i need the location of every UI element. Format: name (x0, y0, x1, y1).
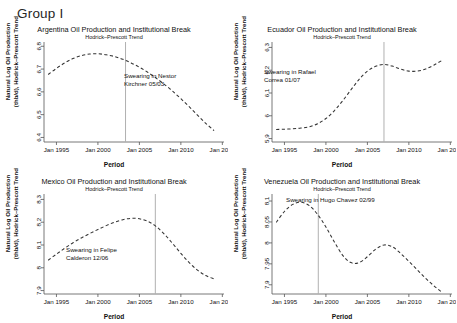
svg-text:7.95: 7.95 (263, 257, 270, 270)
plot-area: 7.97.9588.058.1Jan 1995Jan 2000Jan 2005J… (228, 172, 456, 322)
svg-text:Jan 1995: Jan 1995 (44, 298, 70, 305)
annotation-line1: Swearing in Hugo Chavez 02/99 (286, 196, 375, 204)
svg-text:Jan 2015: Jan 2015 (210, 298, 228, 305)
svg-text:Jan 1995: Jan 1995 (272, 298, 298, 305)
svg-text:Jan 1995: Jan 1995 (44, 146, 70, 153)
svg-text:Jan 2010: Jan 2010 (168, 298, 194, 305)
svg-text:8.1: 8.1 (263, 196, 270, 205)
svg-text:Jan 2005: Jan 2005 (127, 298, 153, 305)
svg-text:5.9: 5.9 (263, 134, 270, 143)
annotation-line1: Swearing in Felipe (66, 246, 117, 254)
svg-text:Jan 2015: Jan 2015 (438, 146, 456, 153)
svg-text:Jan 2015: Jan 2015 (210, 146, 228, 153)
svg-text:8.3: 8.3 (35, 195, 42, 204)
plot-area: 6.46.56.66.76.8Jan 1995Jan 2000Jan 2005J… (0, 20, 228, 170)
svg-text:Jan 2005: Jan 2005 (127, 146, 153, 153)
x-axis-label: Period (228, 313, 456, 320)
plot-area: 5.966.16.26.3Jan 1995Jan 2000Jan 2005Jan… (228, 20, 456, 170)
svg-text:8: 8 (263, 241, 270, 245)
svg-text:Jan 2000: Jan 2000 (313, 298, 339, 305)
svg-text:8.05: 8.05 (263, 215, 270, 228)
chart-panel-ecuador: Ecuador Oil Production and Institutional… (228, 20, 456, 170)
svg-text:Jan 2000: Jan 2000 (313, 146, 339, 153)
annotation-line1: Swearing in Nestor (124, 72, 176, 80)
svg-text:Jan 2005: Jan 2005 (355, 298, 381, 305)
annotation-break-event: Swearing in Hugo Chavez 02/99 (286, 196, 375, 204)
svg-text:8.2: 8.2 (35, 217, 42, 226)
svg-text:6.8: 6.8 (35, 41, 42, 50)
svg-text:8.1: 8.1 (35, 240, 42, 249)
svg-text:6.3: 6.3 (263, 43, 270, 52)
svg-text:6.7: 6.7 (35, 64, 42, 73)
group-title: Group I (17, 6, 63, 21)
svg-text:Jan 2000: Jan 2000 (85, 146, 111, 153)
annotation-line2: Calderon 12/06 (66, 254, 117, 262)
annotation-line2: Kirchner 05/03 (124, 80, 176, 88)
svg-text:7.9: 7.9 (263, 280, 270, 289)
chart-panel-venezuela: Venezuela Oil Production and Institution… (228, 172, 456, 322)
svg-text:6.6: 6.6 (35, 87, 42, 96)
x-axis-label: Period (228, 161, 456, 168)
svg-text:Jan 2010: Jan 2010 (168, 146, 194, 153)
svg-text:6.5: 6.5 (35, 110, 42, 119)
annotation-line2: Correa 01/07 (264, 76, 316, 84)
x-axis-label: Period (0, 313, 228, 320)
svg-text:Jan 2000: Jan 2000 (85, 298, 111, 305)
svg-text:6.1: 6.1 (263, 88, 270, 97)
svg-text:Jan 2010: Jan 2010 (396, 298, 422, 305)
chart-panel-mexico: Mexico Oil Production and Institutional … (0, 172, 228, 322)
svg-text:Jan 2005: Jan 2005 (355, 146, 381, 153)
svg-text:7.9: 7.9 (35, 286, 42, 295)
annotation-break-event: Swearing in Felipe Calderon 12/06 (66, 246, 117, 262)
svg-text:Jan 2010: Jan 2010 (396, 146, 422, 153)
svg-text:8: 8 (35, 266, 42, 270)
annotation-line1: Swearing in Rafael (264, 68, 316, 76)
chart-panel-argentina: Argentina Oil Production and Institution… (0, 20, 228, 170)
x-axis-label: Period (0, 161, 228, 168)
annotation-break-event: Swearing in Nestor Kirchner 05/03 (124, 72, 176, 88)
annotation-break-event: Swearing in Rafael Correa 01/07 (264, 68, 316, 84)
svg-text:Jan 1995: Jan 1995 (272, 146, 298, 153)
svg-text:6.4: 6.4 (35, 133, 42, 142)
svg-text:Jan 2015: Jan 2015 (438, 298, 456, 305)
svg-text:6: 6 (263, 114, 270, 118)
